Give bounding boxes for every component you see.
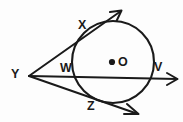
secant-ywv [29, 76, 177, 79]
label-point-w: W [60, 62, 72, 75]
ray-yx [29, 11, 121, 76]
geometry-figure: X Y W V Z O [0, 0, 183, 122]
label-point-v: V [154, 61, 162, 74]
label-point-y: Y [11, 68, 19, 81]
label-point-o: O [118, 56, 128, 69]
label-point-x: X [78, 19, 86, 32]
label-point-z: Z [87, 100, 95, 113]
ray-yz [29, 76, 138, 114]
center-dot-icon [109, 59, 115, 65]
